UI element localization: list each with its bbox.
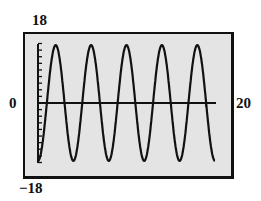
x-min-label: 0	[9, 96, 17, 111]
plot-area	[0, 0, 261, 201]
y-max-label: 18	[32, 13, 47, 28]
x-max-label: 20	[236, 96, 251, 111]
y-min-label: −18	[19, 181, 43, 196]
